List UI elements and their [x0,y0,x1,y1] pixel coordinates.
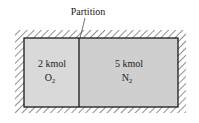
partition-label: Partition [71,6,105,17]
left-species-symbol: O [45,72,52,83]
tank-diagram: Partition 2 kmol O2 5 kmol N2 [0,0,199,123]
right-species-symbol: N [122,72,129,83]
right-amount: 5 kmol [115,58,143,69]
left-amount: 2 kmol [38,58,66,69]
right-species-subscript: 2 [129,77,133,85]
left-species-subscript: 2 [52,77,56,85]
